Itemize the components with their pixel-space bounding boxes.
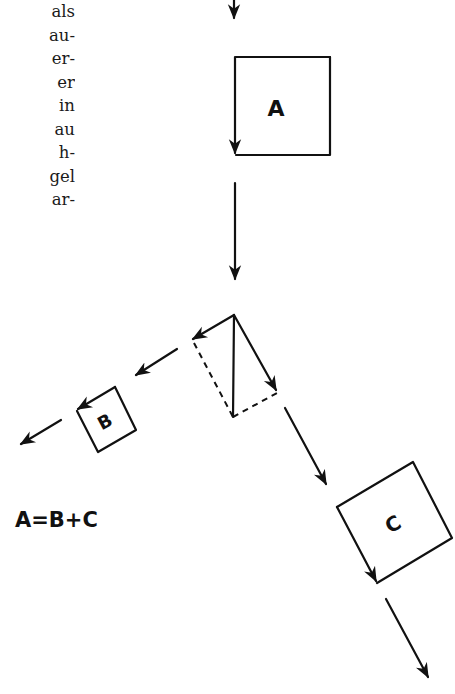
equation-label: A=B+C bbox=[15, 508, 98, 532]
vector-decomposition-diagram: A B A=B+C C bbox=[0, 0, 455, 694]
component-b-arrow bbox=[193, 315, 234, 339]
box-b-arrow bbox=[78, 387, 115, 409]
box-b: B bbox=[77, 387, 136, 452]
arrow-out-of-b bbox=[21, 420, 61, 444]
box-a-label: A bbox=[267, 96, 284, 121]
box-c-arrow bbox=[337, 507, 376, 581]
arrow-to-b bbox=[136, 349, 177, 375]
dashed-line-left bbox=[194, 343, 233, 417]
box-c-label: C bbox=[381, 510, 405, 538]
arrow-out-of-c bbox=[386, 599, 428, 677]
arrow-to-c bbox=[285, 408, 326, 484]
component-c-arrow bbox=[234, 315, 276, 390]
dashed-line-right bbox=[233, 393, 277, 417]
resultant-line bbox=[233, 315, 234, 417]
vector-split bbox=[193, 315, 277, 417]
box-c: C bbox=[337, 462, 452, 583]
box-b-label: B bbox=[94, 409, 116, 434]
box-a: A bbox=[235, 57, 330, 155]
